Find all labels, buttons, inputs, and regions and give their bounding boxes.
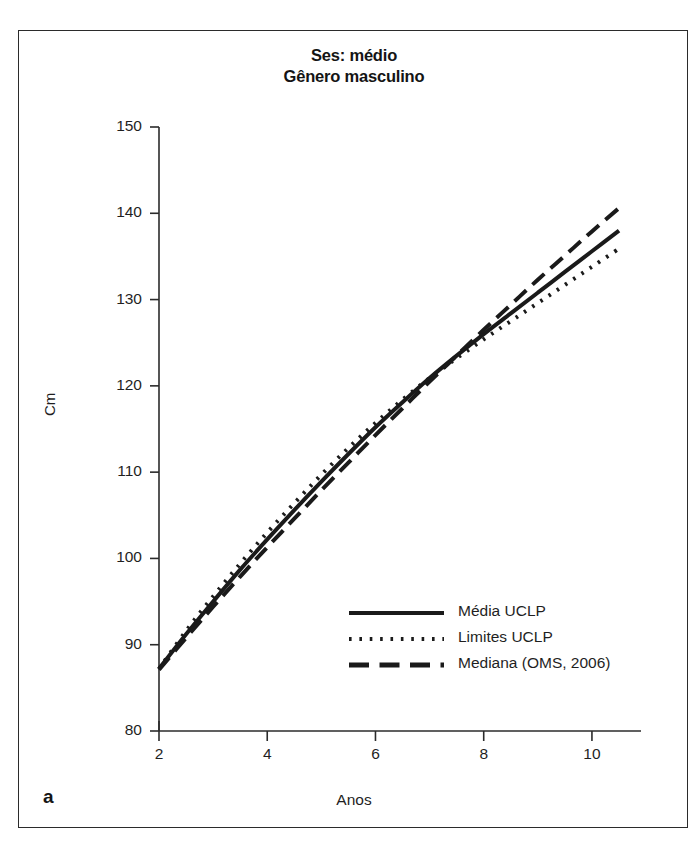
x-tick-label: 4: [245, 745, 289, 763]
x-tick-label: 2: [137, 745, 181, 763]
y-tick-label: 110: [86, 462, 142, 480]
line-chart-plot: [19, 31, 689, 829]
y-tick-label: 100: [86, 548, 142, 566]
figure-frame: Ses: médio Gênero masculino Cm Anos a 80…: [18, 30, 688, 828]
x-tick-label: 8: [462, 745, 506, 763]
x-tick-label: 6: [353, 745, 397, 763]
y-tick-label: 150: [86, 117, 142, 135]
y-tick-label: 140: [86, 203, 142, 221]
series-line-dotted: [159, 249, 619, 669]
chart-area: Ses: médio Gênero masculino Cm Anos a 80…: [19, 31, 689, 829]
y-tick-label: 90: [86, 635, 142, 653]
legend-samples-group: [349, 613, 444, 665]
y-tick-label: 130: [86, 290, 142, 308]
legend-label: Média UCLP: [458, 602, 546, 620]
axes-group: [150, 127, 641, 741]
series-group: [159, 208, 619, 670]
legend-label: Mediana (OMS, 2006): [458, 654, 611, 672]
y-tick-label: 80: [86, 721, 142, 739]
series-line-dashed: [159, 208, 619, 670]
legend-label: Limites UCLP: [458, 628, 553, 646]
x-tick-label: 10: [570, 745, 614, 763]
y-tick-label: 120: [86, 376, 142, 394]
